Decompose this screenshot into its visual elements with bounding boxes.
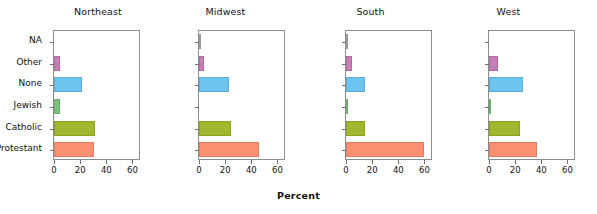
x-tick-mark — [372, 160, 373, 164]
bar-catholic-midwest — [199, 121, 231, 136]
y-tick-mark — [50, 150, 54, 151]
bar-catholic-south — [346, 121, 365, 136]
x-tick-mark — [251, 160, 252, 164]
panel-title-midwest: Midwest — [150, 6, 295, 17]
bar-row — [199, 118, 284, 140]
bar-other-south — [346, 56, 352, 71]
bar-none-south — [346, 77, 365, 92]
bar-row — [489, 139, 574, 161]
y-tick-mark — [50, 64, 54, 65]
bar-none-northeast — [54, 77, 82, 92]
y-label-jewish: Jewish — [14, 95, 42, 117]
x-tick-label-0: 0 — [51, 165, 56, 175]
bar-row — [199, 53, 284, 75]
x-tick-mark — [567, 160, 568, 164]
faceted-bar-chart: Northeast NA Other None Jewish Catholic … — [0, 0, 597, 214]
y-label-na: NA — [29, 30, 42, 52]
bar-none-west — [489, 77, 523, 92]
x-axis-midwest: 0 20 40 60 — [198, 160, 285, 182]
bar-row — [199, 74, 284, 96]
y-tick-mark — [485, 42, 489, 43]
bar-none-midwest — [199, 77, 229, 92]
x-tick-label-60: 60 — [272, 165, 283, 175]
x-tick-label-0: 0 — [486, 165, 491, 175]
x-tick-mark — [489, 160, 490, 164]
x-axis-west: 0 20 40 60 — [488, 160, 575, 182]
x-tick-label-20: 20 — [75, 165, 86, 175]
x-axis-title: Percent — [0, 190, 597, 201]
bar-row — [54, 31, 139, 53]
bar-row — [54, 118, 139, 140]
x-tick-mark — [277, 160, 278, 164]
bar-row — [199, 96, 284, 118]
bar-other-west — [489, 56, 498, 71]
panel-south: South 0 20 40 60 — [295, 0, 440, 186]
y-tick-mark — [485, 64, 489, 65]
y-tick-mark — [485, 107, 489, 108]
bar-protestant-northeast — [54, 142, 94, 157]
plot-area-south — [345, 30, 432, 160]
y-tick-mark — [50, 107, 54, 108]
bar-row — [346, 118, 431, 140]
x-tick-label-0: 0 — [196, 165, 201, 175]
bar-row — [199, 31, 284, 53]
x-tick-mark — [80, 160, 81, 164]
x-tick-mark — [132, 160, 133, 164]
bar-row — [346, 74, 431, 96]
y-tick-mark — [50, 85, 54, 86]
y-axis-labels: NA Other None Jewish Catholic Protestant — [0, 30, 48, 160]
y-tick-mark — [195, 129, 199, 130]
y-tick-mark — [485, 129, 489, 130]
x-tick-label-40: 40 — [536, 165, 547, 175]
bar-jewish-south — [346, 99, 348, 114]
x-tick-mark — [106, 160, 107, 164]
panel-title-west: West — [440, 6, 597, 17]
y-tick-mark — [342, 42, 346, 43]
y-tick-mark — [342, 129, 346, 130]
x-tick-label-20: 20 — [510, 165, 521, 175]
x-tick-label-40: 40 — [393, 165, 404, 175]
bar-other-northeast — [54, 56, 60, 71]
bar-row — [346, 139, 431, 161]
bar-row — [489, 74, 574, 96]
bar-catholic-west — [489, 121, 520, 136]
x-tick-mark — [515, 160, 516, 164]
x-tick-label-60: 60 — [419, 165, 430, 175]
bar-jewish-west — [489, 99, 491, 114]
bar-row — [346, 53, 431, 75]
bar-row — [199, 139, 284, 161]
bar-row — [489, 118, 574, 140]
bar-row — [54, 74, 139, 96]
x-tick-mark — [54, 160, 55, 164]
x-tick-mark — [225, 160, 226, 164]
bar-na-midwest — [199, 34, 201, 49]
x-tick-label-60: 60 — [562, 165, 573, 175]
panel-row: Northeast NA Other None Jewish Catholic … — [0, 0, 597, 186]
bar-row — [54, 139, 139, 161]
plot-area-northeast — [53, 30, 140, 160]
panel-title-northeast: Northeast — [0, 6, 150, 17]
panel-midwest: Midwest 0 20 40 60 — [150, 0, 295, 186]
bar-row — [54, 53, 139, 75]
x-tick-label-20: 20 — [220, 165, 231, 175]
plot-area-west — [488, 30, 575, 160]
y-label-catholic: Catholic — [6, 117, 43, 139]
y-tick-mark — [342, 107, 346, 108]
y-tick-mark — [342, 64, 346, 65]
y-tick-mark — [195, 42, 199, 43]
bar-catholic-northeast — [54, 121, 95, 136]
y-tick-mark — [195, 107, 199, 108]
bar-row — [346, 31, 431, 53]
x-tick-mark — [424, 160, 425, 164]
bar-protestant-south — [346, 142, 424, 157]
y-tick-mark — [195, 150, 199, 151]
y-tick-mark — [195, 85, 199, 86]
y-tick-mark — [342, 150, 346, 151]
x-axis-south: 0 20 40 60 — [345, 160, 432, 182]
y-label-other: Other — [16, 52, 42, 74]
x-tick-label-0: 0 — [343, 165, 348, 175]
y-label-none: None — [19, 73, 42, 95]
x-tick-label-40: 40 — [246, 165, 257, 175]
bar-protestant-midwest — [199, 142, 259, 157]
bar-row — [489, 31, 574, 53]
